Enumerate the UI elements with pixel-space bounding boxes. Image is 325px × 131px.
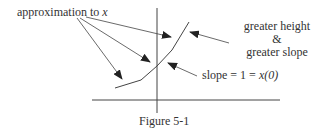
label-greater: greater height & greater slope [238,20,316,59]
figure-caption: Figure 5-1 [139,115,189,128]
slope-prefix-text: slope = 1 = [202,68,259,82]
approximation-curve [115,22,189,88]
arrow-to-segment-1 [77,18,122,79]
arrow-to-segment-2 [80,18,150,62]
slope-expr-text: x(0) [259,68,278,82]
approximation-var: x [102,5,107,19]
arrow-slope [168,63,197,76]
label-approximation: approximation to x [17,6,108,19]
approximation-text: approximation to [17,5,99,19]
label-slope: slope = 1 = x(0) [202,69,278,82]
arrow-greater-height [190,32,229,43]
arrow-to-segment-3 [86,17,171,37]
greater-slope-text: greater slope [238,46,316,59]
